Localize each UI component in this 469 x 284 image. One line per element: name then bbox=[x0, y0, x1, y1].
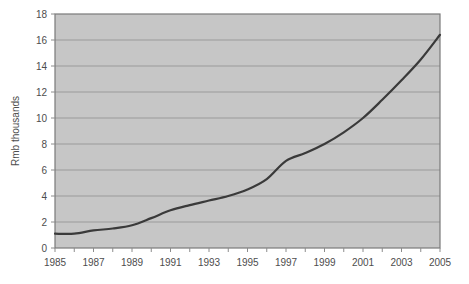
x-axis-tick-label: 1987 bbox=[82, 257, 105, 268]
x-axis-ticks bbox=[55, 248, 440, 252]
y-axis-tick-label: 6 bbox=[41, 165, 47, 176]
y-axis-tick-label: 2 bbox=[41, 217, 47, 228]
line-chart: 024681012141618 198519871989199119931995… bbox=[0, 0, 469, 284]
x-axis-tick-label: 2001 bbox=[352, 257, 375, 268]
y-axis-tick-label: 10 bbox=[36, 113, 48, 124]
plot-area-background bbox=[55, 14, 440, 248]
y-axis-tick-label: 0 bbox=[41, 243, 47, 254]
chart-canvas: 024681012141618 198519871989199119931995… bbox=[0, 0, 469, 284]
x-axis-tick-label: 1985 bbox=[44, 257, 67, 268]
x-axis-tick-label: 2005 bbox=[429, 257, 452, 268]
x-axis-tick-labels: 1985198719891991199319951997199920012003… bbox=[44, 257, 452, 268]
x-axis-tick-label: 1995 bbox=[236, 257, 259, 268]
y-axis-tick-label: 12 bbox=[36, 87, 48, 98]
x-axis-tick-label: 2003 bbox=[390, 257, 413, 268]
x-axis-tick-label: 1989 bbox=[121, 257, 144, 268]
x-axis-tick-label: 1991 bbox=[159, 257, 182, 268]
y-axis-tick-label: 8 bbox=[41, 139, 47, 150]
y-axis-tick-label: 18 bbox=[36, 9, 48, 20]
y-axis-tick-label: 4 bbox=[41, 191, 47, 202]
y-axis-title: Rmb thousands bbox=[10, 96, 21, 166]
x-axis-tick-label: 1993 bbox=[198, 257, 221, 268]
y-axis-tick-label: 14 bbox=[36, 61, 48, 72]
x-axis-tick-label: 1997 bbox=[275, 257, 298, 268]
y-axis-tick-labels: 024681012141618 bbox=[36, 9, 48, 254]
y-axis-tick-label: 16 bbox=[36, 35, 48, 46]
x-axis-tick-label: 1999 bbox=[313, 257, 336, 268]
